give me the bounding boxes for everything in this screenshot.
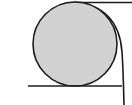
shaded-circle [33,2,117,86]
geometric-figure-container [0,0,132,105]
geometric-figure-svg [0,0,132,105]
